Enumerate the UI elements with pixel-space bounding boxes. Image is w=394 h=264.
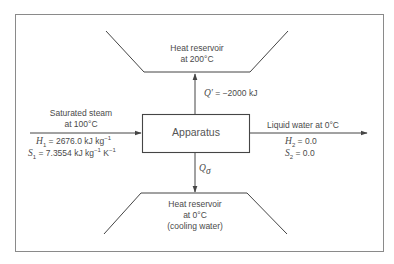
cold-reservoir-temperature: at 0°C [167,210,223,221]
h2-subscript: 2 [292,142,295,148]
s1-unit-exponent-k: −1 [109,147,116,153]
hot-reservoir-temperature: at 200°C [170,54,223,65]
h1-value: = 2676.0 kJ kg [49,136,105,146]
q-prime-symbol: Q′ [204,88,213,98]
apparatus-label: Apparatus [172,127,220,138]
outlet-enthalpy: H2 = 0.0 [285,136,317,147]
heat-to-hot-label: Q′ = −2000 kJ [204,88,257,99]
s1-unit-k: K [101,148,109,158]
s2-value: = 0.0 [295,148,314,158]
hot-reservoir-title: Heat reservoir [170,43,223,54]
hot-reservoir-label: Heat reservoir at 200°C [170,43,223,65]
q-sigma-symbol: Q [199,163,206,173]
outlet-entropy: S2 = 0.0 [285,148,315,159]
inlet-title: Saturated steam [50,108,112,119]
s1-value: = 7.3554 kJ kg [38,148,94,158]
s1-subscript: 1 [33,154,36,160]
outlet-description: Liquid water at 0°C [267,120,339,131]
cold-reservoir-title: Heat reservoir [167,199,223,210]
process-diagram: Heat reservoir at 200°C Q′ = −2000 kJ Ap… [0,0,394,264]
inlet-entropy: S1 = 7.3554 kJ kg−1 K−1 [28,148,116,159]
inlet-description: Saturated steam at 100°C [50,108,112,130]
s1-unit-exponent-kg: −1 [94,147,101,153]
s2-subscript: 2 [290,154,293,160]
h2-symbol: H [285,136,292,146]
h2-value: = 0.0 [298,136,317,146]
q-prime-value: = −2000 kJ [215,88,257,98]
inlet-enthalpy: H1 = 2676.0 kJ kg−1 [36,136,111,147]
h1-symbol: H [36,136,43,146]
h1-unit-exponent: −1 [104,135,111,141]
cold-reservoir-label: Heat reservoir at 0°C (cooling water) [167,199,223,232]
q-sigma-subscript: σ [206,166,211,176]
inlet-temperature: at 100°C [50,119,112,130]
h1-subscript: 1 [43,142,46,148]
heat-to-cold-label: Qσ [199,163,211,174]
cold-reservoir-note: (cooling water) [167,221,223,232]
